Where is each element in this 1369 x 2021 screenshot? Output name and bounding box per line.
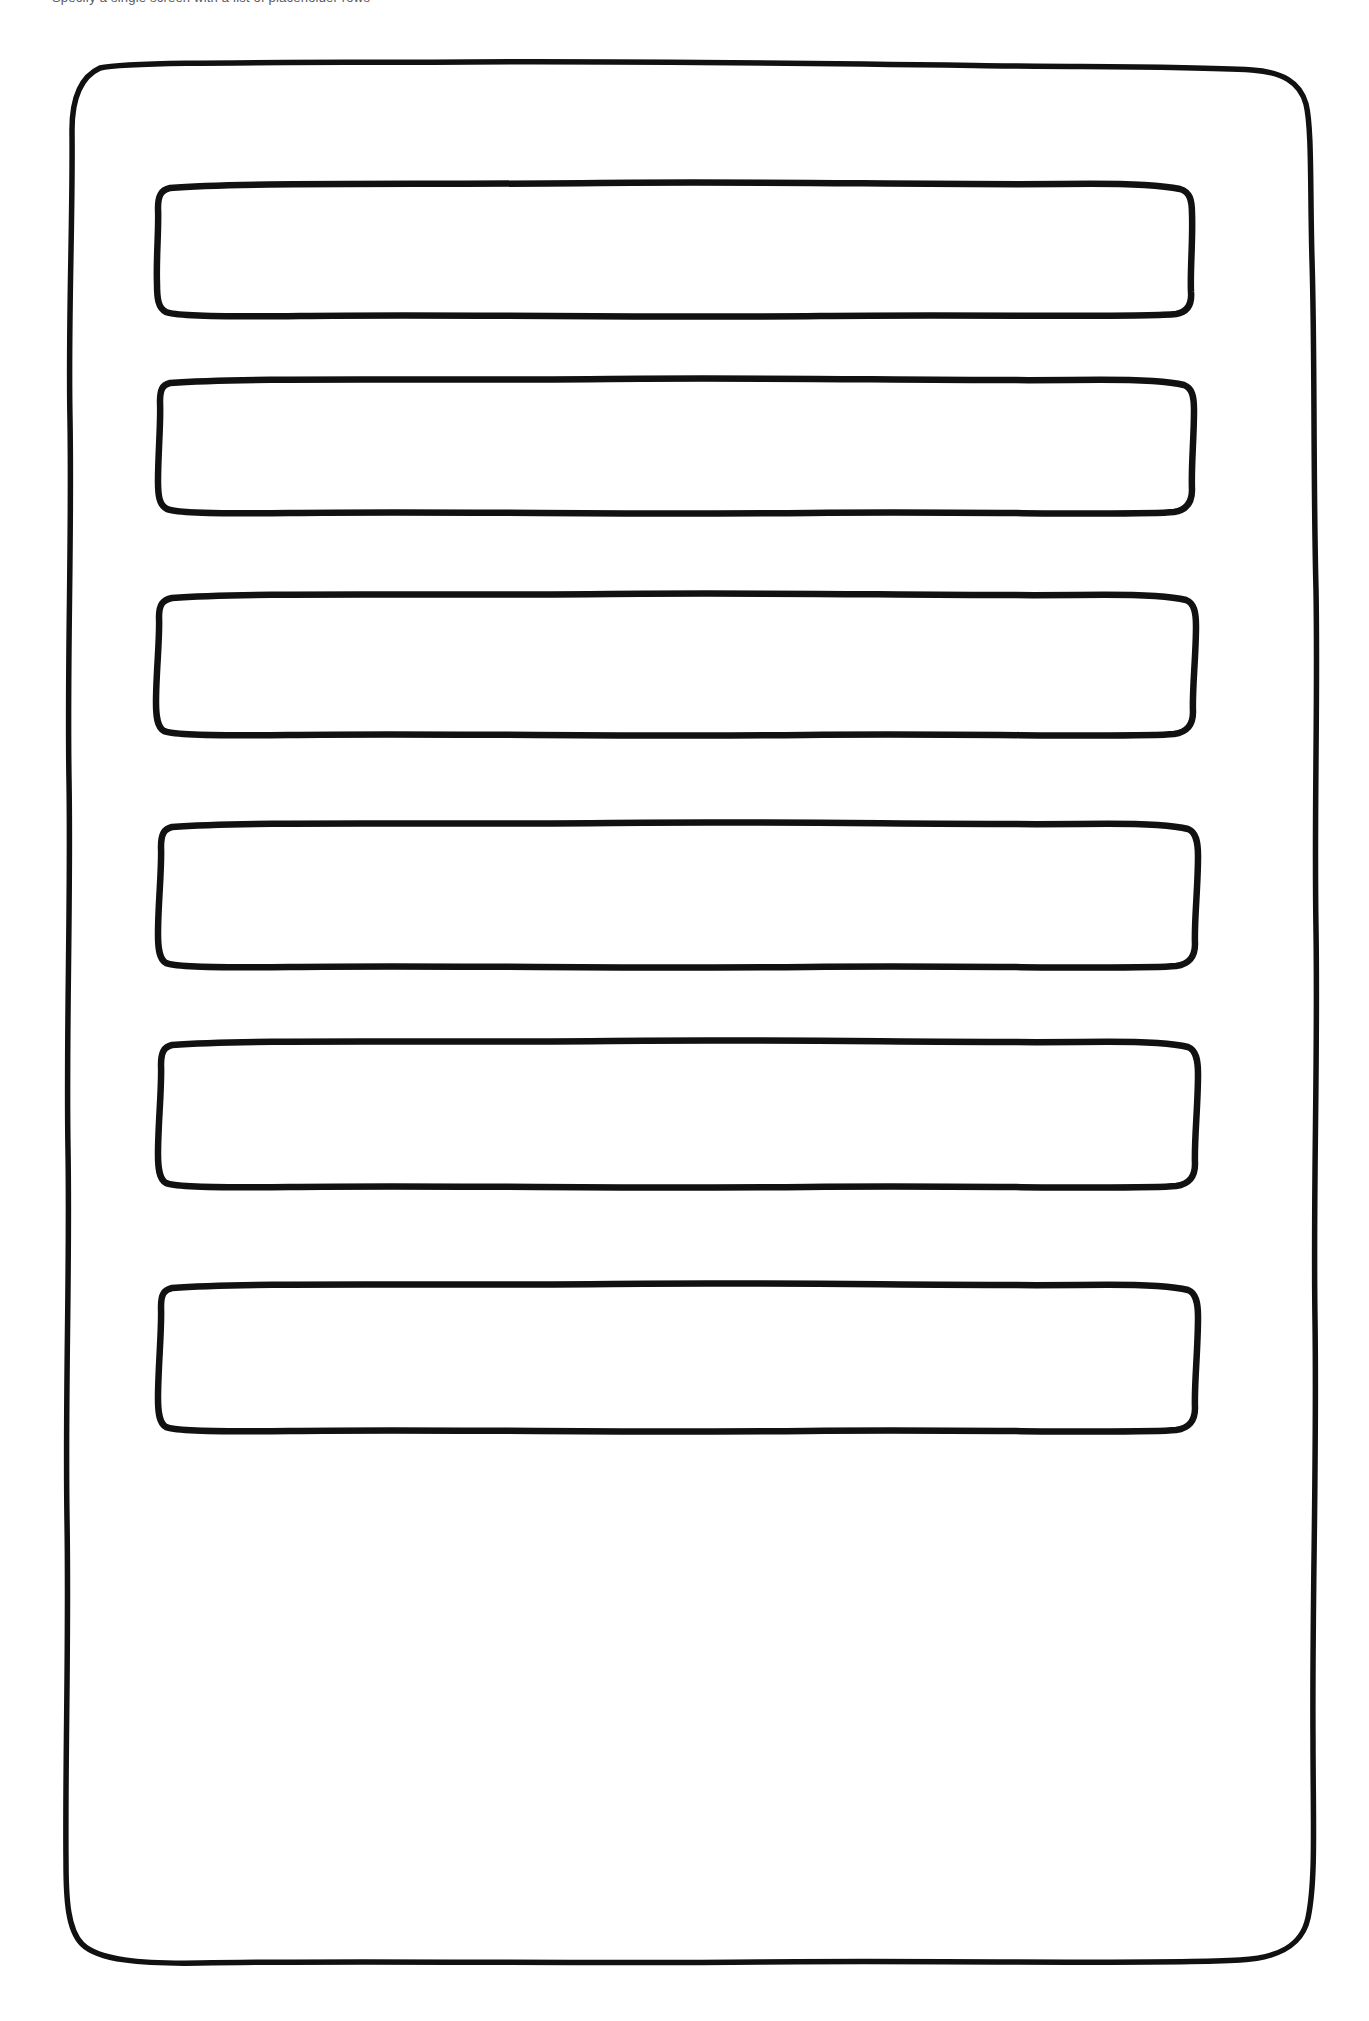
- screen-outline: [66, 62, 1316, 1964]
- list-item[interactable]: Row 4: [157, 821, 1200, 969]
- list-item[interactable]: Row 1: [156, 181, 1196, 318]
- list-item[interactable]: Row 6: [157, 1282, 1200, 1434]
- list-item[interactable]: Row 5: [157, 1039, 1200, 1189]
- wireframe-sketch-canvas: Specify a single screen with a list of p…: [0, 0, 1369, 2021]
- list-item[interactable]: Row 3: [155, 592, 1198, 737]
- list-item[interactable]: Row 2: [157, 377, 1197, 514]
